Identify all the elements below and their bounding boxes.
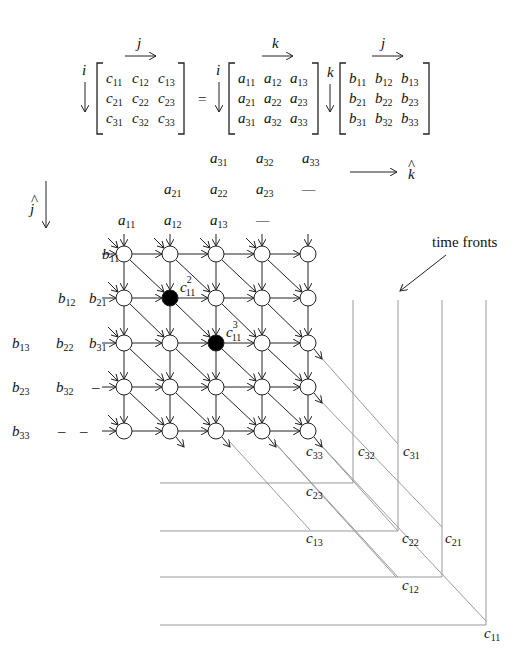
time-fronts-label: time fronts <box>432 234 498 250</box>
j-hat-axis: j ^ <box>28 181 46 228</box>
b-input-32: b32 <box>56 379 74 397</box>
row-label-i: i <box>82 62 86 78</box>
matrix-cell-c21: c21 <box>106 90 123 108</box>
a-input-33: a33 <box>302 150 320 168</box>
matrix-cell-c13: c13 <box>158 70 175 88</box>
matrix-cell-b33: b33 <box>401 110 419 128</box>
arrow-icon <box>400 255 446 291</box>
output-c33: c33 <box>306 443 323 461</box>
processing-node <box>254 246 270 262</box>
output-c21: c21 <box>445 530 462 548</box>
partial-sum-label: c311 <box>226 319 241 343</box>
b-input-22: b22 <box>56 335 74 353</box>
processing-node <box>254 335 270 351</box>
output-labels: c33c32c31c23c13c22c21c12c11 <box>306 443 500 643</box>
output-c22: c22 <box>402 530 419 548</box>
output-c32: c32 <box>358 443 375 461</box>
bracket-right <box>312 63 318 134</box>
a-input-empty: — <box>301 181 316 197</box>
a-input-12: a12 <box>164 212 182 230</box>
matrix-cell-b12: b12 <box>375 70 393 88</box>
output-c13: c13 <box>306 530 323 548</box>
bracket-left <box>340 63 346 134</box>
processing-node <box>116 335 132 351</box>
bracket-left <box>97 63 103 134</box>
a-input-31: a31 <box>210 150 228 168</box>
active-processing-node <box>208 335 224 351</box>
b-input-13: b13 <box>12 335 30 353</box>
matrix-cell-a33: a33 <box>290 110 308 128</box>
row-label-k: k <box>327 64 334 80</box>
matrix-cell-b13: b13 <box>401 70 419 88</box>
a-input-22: a22 <box>210 181 228 199</box>
a-input-32: a32 <box>256 150 274 168</box>
bracket-right <box>423 63 429 134</box>
systolic-array-diagram: j i c11c12c13c21c22c23c31c32c33 = k i a1… <box>0 0 527 662</box>
a-input-23: a23 <box>256 181 274 199</box>
k-hat-axis: k ^ <box>350 157 415 182</box>
processing-node <box>162 379 178 395</box>
processing-element-grid: c211c311 <box>102 234 322 447</box>
bracket-right <box>178 63 184 134</box>
partial-sum-label: c211 <box>180 274 195 298</box>
b-input-empty: – <box>79 423 88 439</box>
matrix-cell-a32: a32 <box>264 110 282 128</box>
matrix-cell-a31: a31 <box>238 110 256 128</box>
time-front-lines <box>160 300 486 625</box>
processing-node <box>116 379 132 395</box>
a-input-13: a13 <box>210 212 228 230</box>
a-input-empty: — <box>255 212 270 228</box>
matrix-a: k i a11a12a13a21a22a23a31a32a33 <box>216 35 318 134</box>
matrix-c: j i c11c12c13c21c22c23c31c32c33 <box>82 35 184 134</box>
output-c11: c11 <box>484 625 500 643</box>
matrix-cell-b32: b32 <box>375 110 393 128</box>
matrix-cell-c31: c31 <box>106 110 123 128</box>
processing-node <box>208 379 224 395</box>
matrix-cell-b11: b11 <box>349 70 366 88</box>
matrix-cell-a11: a11 <box>238 70 255 88</box>
a-input-11: a11 <box>118 212 135 230</box>
processing-node <box>254 423 270 439</box>
processing-node <box>300 246 316 262</box>
equals-sign: = <box>198 91 206 107</box>
b-input-12: b12 <box>58 290 76 308</box>
row-label-i: i <box>216 62 220 78</box>
processing-node <box>162 335 178 351</box>
matrix-cell-c12: c12 <box>132 70 149 88</box>
processing-node <box>300 290 316 306</box>
processing-node <box>300 335 316 351</box>
col-label-j: j <box>135 35 141 51</box>
output-c31: c31 <box>403 443 420 461</box>
time-fronts-annotation: time fronts <box>400 234 498 291</box>
processing-node <box>254 290 270 306</box>
processing-node <box>116 290 132 306</box>
matrix-cell-b31: b31 <box>349 110 367 128</box>
processing-node <box>300 379 316 395</box>
hat-icon: ^ <box>31 192 38 208</box>
bracket-left <box>229 63 235 134</box>
matrix-cell-c32: c32 <box>132 110 149 128</box>
matrix-cell-c33: c33 <box>158 110 175 128</box>
output-c12: c12 <box>402 577 419 595</box>
b-input-empty: – <box>57 423 66 439</box>
processing-node <box>116 423 132 439</box>
matrix-cell-c11: c11 <box>106 70 122 88</box>
matrix-cell-a21: a21 <box>238 90 256 108</box>
b-input-empty: – <box>91 379 100 395</box>
col-label-k: k <box>272 35 279 51</box>
b-input-31: b31 <box>89 335 107 353</box>
processing-node <box>208 246 224 262</box>
processing-node <box>254 379 270 395</box>
matrix-cell-a12: a12 <box>264 70 282 88</box>
matrix-cell-b23: b23 <box>401 90 419 108</box>
matrix-cell-c23: c23 <box>158 90 175 108</box>
matrix-cell-a22: a22 <box>264 90 282 108</box>
matrix-cell-c22: c22 <box>132 90 149 108</box>
active-processing-node <box>162 290 178 306</box>
matrix-cell-b22: b22 <box>375 90 393 108</box>
matrix-b: j k b11b12b13b21b22b23b31b32b33 <box>327 35 429 134</box>
b-input-33: b33 <box>12 423 30 441</box>
processing-node <box>162 246 178 262</box>
matrix-equation: j i c11c12c13c21c22c23c31c32c33 = k i a1… <box>82 35 429 134</box>
processing-node <box>300 423 316 439</box>
